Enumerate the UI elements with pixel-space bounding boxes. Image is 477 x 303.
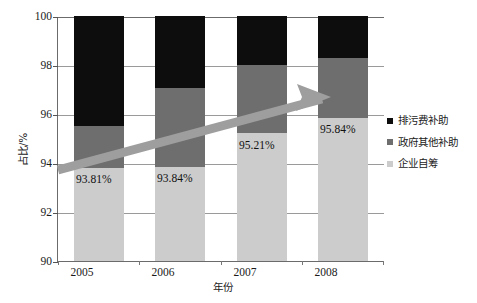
y-axis-tick-labels: 100 98 96 94 92 90 [18, 0, 52, 303]
data-label-2005: 93.81% [76, 173, 111, 185]
y-tick-label-100: 100 [22, 11, 52, 23]
bar-2007-segment-self [237, 133, 287, 261]
legend-item-fee[interactable]: 排污费补助 [387, 114, 477, 127]
x-axis-title: 年份 [193, 279, 253, 294]
data-label-2008: 95.84% [320, 123, 355, 135]
y-tick-96 [53, 115, 58, 116]
bar-2005-segment-gov [74, 126, 124, 167]
bar-2005-segment-fee [74, 16, 124, 126]
legend-item-gov[interactable]: 政府其他补助 [387, 136, 477, 149]
plot-area: 93.81% 93.84% 95.21% 95.84% [57, 17, 383, 262]
legend-swatch-gov-icon [387, 139, 393, 145]
x-tick-4 [383, 261, 384, 265]
bar-2008-segment-fee [318, 16, 368, 58]
x-tick-3 [302, 261, 303, 265]
x-tick-0 [58, 261, 59, 265]
data-label-2006: 93.84% [157, 172, 192, 184]
chart-figure: 占比/% 100 98 96 94 92 90 [0, 0, 477, 303]
bar-2007-segment-gov [237, 65, 287, 133]
bar-2007-segment-fee [237, 16, 287, 65]
x-tick-label-2008: 2008 [296, 266, 356, 278]
x-tick-label-2005: 2005 [52, 266, 112, 278]
legend-swatch-self-icon [387, 161, 393, 167]
legend-swatch-fee-icon [387, 118, 393, 124]
y-tick-92 [53, 213, 58, 214]
legend-label-fee: 排污费补助 [398, 115, 448, 126]
legend-label-gov: 政府其他补助 [398, 137, 458, 148]
bar-2005 [74, 16, 124, 261]
bar-2008-segment-gov [318, 58, 368, 118]
bar-2008-segment-self [318, 118, 368, 261]
x-tick-1 [139, 261, 140, 265]
bar-2006-segment-fee [155, 16, 205, 88]
y-tick-98 [53, 66, 58, 67]
x-tick-label-2006: 2006 [133, 266, 193, 278]
bar-2006 [155, 16, 205, 261]
data-label-2007: 95.21% [239, 139, 274, 151]
y-tick-label-96: 96 [22, 109, 52, 121]
x-tick-label-2007: 2007 [215, 266, 275, 278]
y-tick-label-94: 94 [22, 158, 52, 170]
bar-2006-segment-gov [155, 88, 205, 167]
y-tick-94 [53, 164, 58, 165]
x-tick-2 [221, 261, 222, 265]
bar-2008 [318, 16, 368, 261]
legend-item-self[interactable]: 企业自筹 [387, 157, 477, 170]
y-tick-label-92: 92 [22, 207, 52, 219]
chart-legend: 排污费补助 政府其他补助 企业自筹 [387, 114, 477, 179]
y-tick-100 [53, 17, 58, 18]
y-tick-label-90: 90 [22, 256, 52, 268]
y-tick-label-98: 98 [22, 60, 52, 72]
legend-label-self: 企业自筹 [398, 158, 438, 169]
